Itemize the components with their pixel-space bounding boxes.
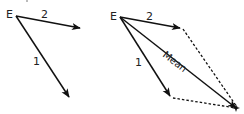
- parallelogram-dashed-side-bottom: [173, 98, 236, 108]
- parallelogram-dashed-side-top: [183, 29, 237, 107]
- vector-1-label: 1: [33, 55, 40, 68]
- origin-label-e: E: [110, 10, 117, 23]
- vector-2-label: 2: [41, 8, 48, 21]
- vector-1-arrow: [16, 16, 69, 97]
- right-diagram: E 2 1 Mean: [110, 10, 240, 112]
- clipped-text-fragment: [26, 0, 28, 2]
- vector-1-label: 1: [135, 56, 142, 69]
- vector-diagram: E 2 1 E 2 1 Mean: [0, 0, 244, 114]
- left-diagram: E 2 1: [6, 8, 80, 97]
- vector-2-arrow: [16, 16, 80, 28]
- origin-label-e: E: [6, 8, 13, 21]
- mean-label: Mean: [161, 49, 189, 74]
- vector-2-label: 2: [146, 10, 153, 23]
